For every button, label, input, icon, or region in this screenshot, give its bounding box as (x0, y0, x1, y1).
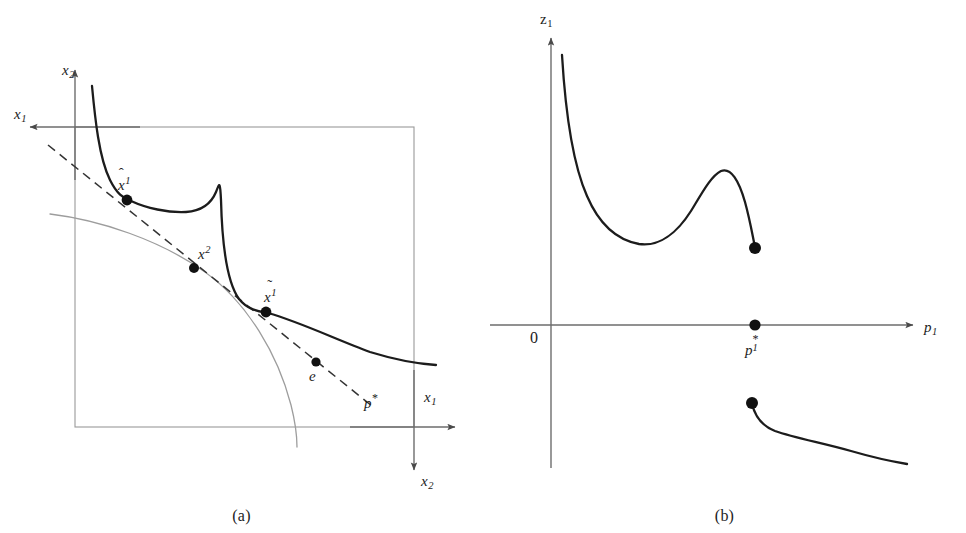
axis-label-x1-left: x1 (14, 107, 26, 124)
p1-star-dot (749, 319, 760, 330)
offer-curve (92, 86, 436, 365)
origin-label-zero: 0 (530, 330, 538, 346)
lower-branch-start-dot (746, 397, 758, 409)
point-label-x-hat-1: ̂x1 (118, 176, 130, 193)
axis-label-z1: z1 (540, 12, 552, 29)
panel-b-canvas (483, 0, 966, 533)
budget-line-label-p-star: p* (364, 392, 378, 411)
indifference-curve (50, 214, 297, 447)
point-label-x-2: x2 (198, 245, 210, 262)
point-label-x-tilde-1: ̃x1 (264, 288, 276, 305)
axis-label-p1: p1 (924, 320, 937, 337)
figure-root: x2 x1 x1 x2 ̂x1 x2 ̃x1 e p* (a) (0, 0, 966, 533)
point-x-tilde-1 (261, 307, 272, 318)
excess-demand-upper-branch (562, 55, 755, 247)
panel-b: z1 p1 0 p*1 (b) (483, 0, 966, 533)
panel-a: x2 x1 x1 x2 ̂x1 x2 ̃x1 e p* (a) (0, 0, 483, 533)
axis-label-x2-bottom: x2 (421, 474, 433, 491)
panel-b-caption: (b) (483, 507, 966, 525)
marked-point-label-p1-star: p*1 (745, 340, 760, 358)
upper-branch-endpoint-dot (749, 242, 761, 254)
panel-a-caption: (a) (0, 507, 483, 525)
point-e (311, 357, 320, 366)
edgeworth-box (75, 127, 414, 427)
axis-label-x1-right: x1 (424, 390, 436, 407)
excess-demand-lower-branch (752, 404, 907, 464)
point-label-e: e (309, 369, 316, 384)
point-x-2 (189, 263, 199, 273)
axis-label-x2-top: x2 (62, 63, 74, 80)
point-x-hat-1 (122, 195, 133, 206)
